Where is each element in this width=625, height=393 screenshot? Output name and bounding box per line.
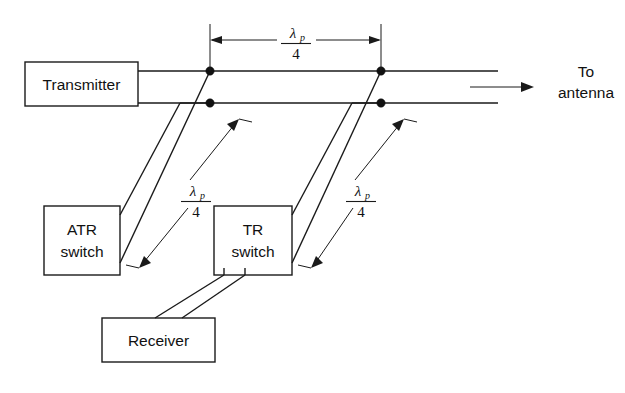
top-lambda-symbol: λ (289, 25, 297, 41)
diagram-canvas: Transmitter ATR switch TR switch Receive… (0, 0, 625, 393)
top-dimension-label: λ p 4 (281, 25, 311, 62)
left-lambda-symbol: λ (189, 183, 197, 199)
right-lambda-subscript: p (364, 190, 370, 201)
to-antenna-arrow (470, 82, 534, 92)
transmitter-block: Transmitter (25, 62, 138, 106)
left-dimension-label: λ p 4 (181, 183, 211, 220)
atr-switch-block: ATR switch (44, 206, 120, 275)
right-fraction-denominator: 4 (357, 204, 365, 220)
left-fraction-denominator: 4 (192, 204, 200, 220)
tr-branch-waveguide (292, 71, 381, 263)
junction-dot-lower-right (377, 99, 385, 107)
junction-nodes (206, 67, 385, 107)
tr-switch-block: TR switch (214, 206, 292, 275)
receiver-block: Receiver (102, 318, 215, 362)
to-antenna-label: To antenna (558, 63, 614, 101)
right-dimension-label: λ p 4 (346, 183, 376, 220)
to-antenna-line1: To (578, 63, 594, 80)
to-antenna-line2: antenna (558, 84, 614, 101)
right-lambda-symbol: λ (354, 183, 362, 199)
tr-switch-label-line1: TR (243, 221, 264, 238)
receiver-label: Receiver (128, 332, 189, 349)
junction-dot-lower-left (206, 99, 214, 107)
left-lambda-subscript: p (199, 190, 205, 201)
atr-switch-label-line1: ATR (67, 221, 97, 238)
tr-switch-label-line2: switch (231, 243, 274, 260)
top-lambda-subscript: p (299, 32, 305, 43)
transmitter-label: Transmitter (43, 76, 121, 93)
top-fraction-denominator: 4 (292, 46, 300, 62)
atr-switch-label-line2: switch (60, 243, 103, 260)
duplexer-schematic-svg: Transmitter ATR switch TR switch Receive… (0, 0, 625, 393)
